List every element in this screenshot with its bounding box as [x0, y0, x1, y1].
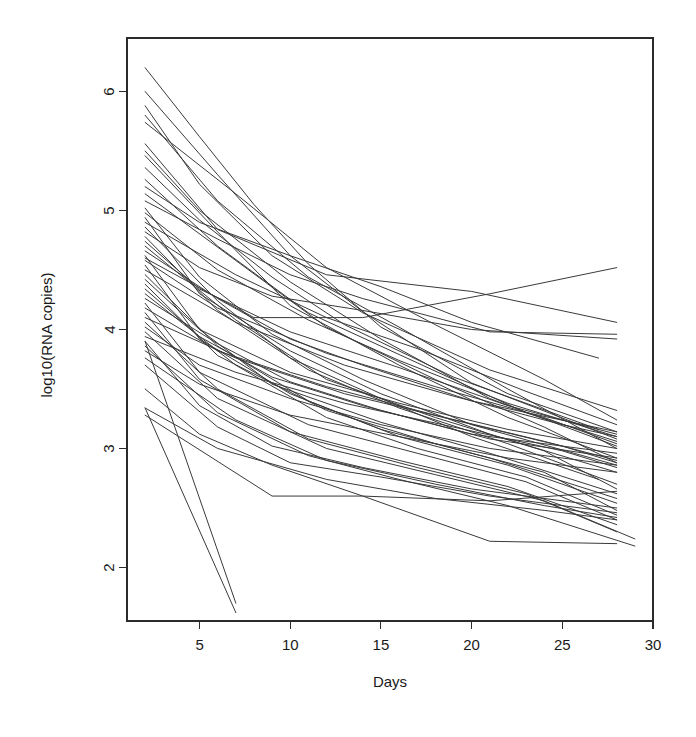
- figure-container: 51015202530 23456 Days log10(RNA copies): [0, 0, 696, 737]
- y-axis-title: log10(RNA copies): [38, 272, 55, 397]
- x-tick-label: 5: [195, 636, 203, 653]
- y-tick-label: 4: [101, 325, 118, 333]
- x-tick-label: 25: [554, 636, 571, 653]
- y-tick-label: 6: [101, 87, 118, 95]
- x-tick-label: 20: [463, 636, 480, 653]
- x-tick-label: 10: [282, 636, 299, 653]
- chart-background: [0, 0, 696, 737]
- x-tick-label: 30: [645, 636, 662, 653]
- viral-load-spaghetti-chart: 51015202530 23456 Days log10(RNA copies): [0, 0, 696, 737]
- x-tick-label: 15: [373, 636, 390, 653]
- y-tick-label: 3: [101, 444, 118, 452]
- x-axis-title: Days: [373, 673, 407, 690]
- y-tick-label: 5: [101, 206, 118, 214]
- y-tick-label: 2: [101, 563, 118, 571]
